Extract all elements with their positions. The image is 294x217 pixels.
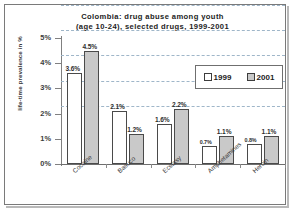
x-axis-tick: [106, 164, 107, 168]
y-axis-tick-label: 4%: [19, 58, 51, 67]
legend-item-2001: 2001: [247, 73, 275, 82]
x-axis-tick: [195, 164, 196, 168]
y-axis-tick-label: 1%: [19, 134, 51, 143]
y-axis-tick-label: 3%: [19, 83, 51, 92]
bar-value-label: 2.1%: [110, 103, 125, 110]
bar-value-label: 0.8%: [245, 137, 257, 143]
bar-basuco-1999[interactable]: [112, 111, 127, 164]
chart-legend: 1999 2001: [195, 65, 283, 89]
plot-area: 3.6%4.5%2.1%1.2%1.6%2.2%0.7%1.1%0.8%1.1%: [61, 38, 285, 164]
chart-title: Colombia: drug abuse among youth (age 10…: [35, 12, 270, 32]
bar-cocaine-1999[interactable]: [67, 73, 82, 164]
bar-value-label: 1.2%: [127, 126, 142, 133]
bar-value-label: 4.5%: [82, 43, 97, 50]
legend-swatch-1999: [204, 73, 212, 81]
bar-cocaine-2001[interactable]: [84, 51, 99, 164]
frame-shadow-bottom: [6, 206, 289, 208]
legend-label-2001: 2001: [257, 73, 275, 82]
legend-item-1999: 1999: [204, 73, 232, 82]
bar-value-label: 1.1%: [217, 128, 232, 135]
chart-frame: Colombia: drug abuse among youth (age 10…: [4, 4, 286, 205]
bar-value-label: 3.6%: [65, 65, 80, 72]
y-axis-tick-label: 5%: [19, 33, 51, 42]
gridline: [61, 30, 285, 31]
bar-value-label: 1.1%: [262, 128, 277, 135]
chart-title-line-1: Colombia: drug abuse among youth: [35, 12, 270, 22]
gridline: [61, 5, 285, 6]
x-axis-tick: [240, 164, 241, 168]
x-axis-tick: [285, 164, 286, 168]
legend-swatch-2001: [247, 73, 255, 81]
legend-label-1999: 1999: [214, 73, 232, 82]
frame-shadow-right: [287, 6, 289, 207]
bar-value-label: 2.2%: [172, 101, 187, 108]
x-axis-tick: [151, 164, 152, 168]
bar-value-label: 0.7%: [200, 139, 212, 145]
y-axis-tick: [55, 164, 61, 165]
y-axis-tick-label: 0%: [19, 159, 51, 168]
y-axis-label: life-time prevalence in %: [16, 34, 23, 114]
bar-ecstasy-1999[interactable]: [157, 124, 172, 164]
y-axis-tick-label: 2%: [19, 109, 51, 118]
bar-value-label: 1.6%: [155, 116, 170, 123]
